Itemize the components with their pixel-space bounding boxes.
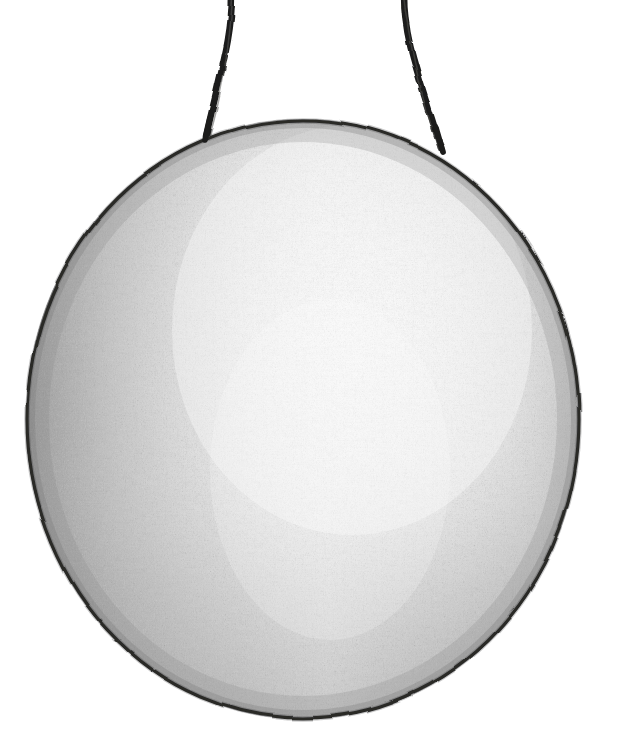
gong-drawing-canvas	[0, 0, 623, 748]
disc-highlight-mid	[210, 300, 450, 640]
artwork-stage: Pencil drawing of a round gong hanging f…	[0, 0, 623, 748]
